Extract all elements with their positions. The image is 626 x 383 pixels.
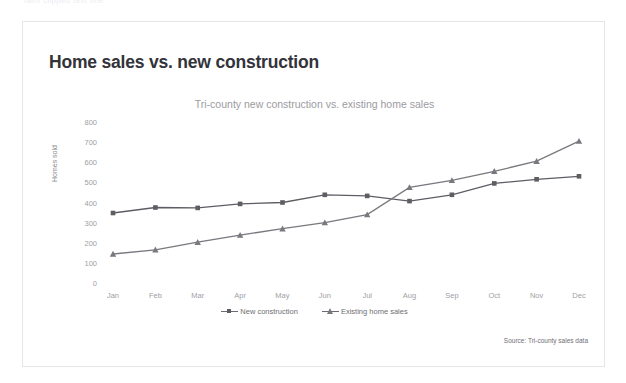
line-chart-svg — [23, 22, 606, 368]
square-marker-icon — [450, 193, 455, 198]
clipped-top-text-strip: faint clipped text line — [0, 0, 626, 14]
square-marker-icon — [111, 211, 116, 216]
chart-plot-area: Homes sold 0100200300400500600700800 Jan… — [23, 22, 606, 368]
triangle-marker-icon — [576, 138, 582, 144]
chart-card: Home sales vs. new construction Tri-coun… — [22, 21, 605, 367]
source-note: Source: Tri-county sales data — [504, 337, 588, 344]
legend-item-existing-home-sales[interactable]: Existing home sales — [322, 307, 408, 316]
legend-label-new-construction: New construction — [240, 307, 298, 316]
square-marker-icon — [195, 206, 200, 211]
series-line — [113, 176, 579, 213]
square-marker-icon — [534, 177, 539, 182]
square-marker-icon — [238, 202, 243, 207]
square-marker-icon — [492, 181, 497, 186]
chart-legend: New construction Existing home sales — [23, 306, 606, 316]
square-marker-icon — [280, 200, 285, 205]
square-marker-icon — [221, 308, 238, 315]
triangle-marker-icon — [533, 158, 539, 164]
clipped-top-text: faint clipped text line — [24, 0, 103, 5]
square-marker-icon — [323, 193, 328, 198]
legend-item-new-construction[interactable]: New construction — [221, 307, 298, 316]
square-marker-icon — [153, 205, 158, 210]
square-marker-icon — [365, 194, 370, 199]
triangle-marker-icon — [322, 308, 339, 315]
triangle-marker-icon — [364, 211, 370, 217]
square-marker-icon — [407, 199, 412, 204]
series-line — [113, 141, 579, 254]
square-marker-icon — [577, 174, 582, 179]
legend-label-existing-home-sales: Existing home sales — [341, 307, 408, 316]
